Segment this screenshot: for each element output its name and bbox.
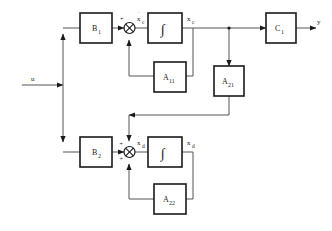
svg-text:x: x	[187, 139, 191, 147]
svg-text:c: c	[142, 19, 145, 25]
label-input-u: u	[31, 75, 35, 83]
svg-text:c: c	[192, 19, 195, 25]
block-c1-subscript: 1	[281, 29, 284, 35]
block-a22[interactable]: A 22	[154, 184, 186, 214]
svg-text:y: y	[317, 18, 321, 26]
block-b1[interactable]: B 1	[80, 13, 112, 43]
block-b2[interactable]: B 2	[80, 137, 112, 167]
wire-a21-to-sum-lower	[129, 96, 229, 141]
wire-xc-tap-to-a21	[227, 26, 230, 66]
block-b1-subscript: 1	[98, 29, 101, 35]
sum-lower-sign-plus-top: +	[120, 141, 124, 147]
block-a21[interactable]: A 21	[214, 66, 244, 96]
label-xc: x c	[187, 15, 195, 25]
block-b2-subscript: 2	[98, 153, 101, 159]
label-xc-dot: x c ̇	[137, 12, 145, 26]
xc-dot-accent: ̇	[138, 12, 140, 13]
block-b2-label: B	[92, 148, 97, 157]
sum-lower-sign-plus-bottom: +	[120, 156, 124, 162]
wire-a22-to-sum-lower	[129, 164, 154, 199]
block-integrator-lower[interactable]: ∫	[148, 137, 182, 167]
sum-upper-sign-plus: +	[120, 16, 124, 22]
block-b1-label: B	[92, 24, 97, 33]
svg-text:u: u	[31, 75, 35, 83]
svg-text:x: x	[137, 15, 141, 23]
summing-junction-upper[interactable]: +	[120, 16, 135, 34]
block-c1-label: C	[275, 24, 280, 33]
svg-text:d: d	[192, 143, 195, 149]
block-a11-subscript: 11	[169, 78, 175, 84]
block-a21-subscript: 21	[228, 82, 234, 88]
wire-xc-tap-to-a11	[186, 28, 193, 76]
block-c1[interactable]: C 1	[266, 13, 296, 43]
block-a22-subscript: 22	[169, 200, 175, 206]
block-integrator-upper[interactable]: ∫	[148, 13, 182, 43]
block-diagram-canvas: B 1 B 2 C 1 ∫ ∫ A 11	[0, 0, 332, 231]
wire-xd-tap-to-a22	[186, 152, 193, 199]
svg-text:x: x	[137, 139, 141, 147]
label-output-y: y	[317, 18, 321, 26]
label-xd: x d	[187, 139, 195, 149]
svg-text:d: d	[142, 143, 145, 149]
svg-text:x: x	[187, 15, 191, 23]
xd-dot-accent: ̇	[138, 136, 140, 137]
wire-a11-to-sum-upper	[129, 40, 154, 76]
block-a11[interactable]: A 11	[154, 62, 186, 92]
block-diagram-svg: B 1 B 2 C 1 ∫ ∫ A 11	[0, 0, 332, 231]
label-xd-dot: x d ̇	[137, 136, 145, 150]
